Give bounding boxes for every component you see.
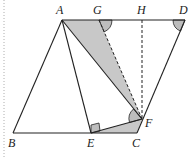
- label-b: B: [8, 136, 16, 150]
- label-h: H: [136, 3, 147, 17]
- geometry-diagram: A G H D B E C F: [0, 0, 195, 158]
- label-f: F: [144, 116, 153, 130]
- label-c: C: [132, 136, 141, 150]
- segment-ab: [13, 20, 62, 133]
- label-e: E: [86, 136, 95, 150]
- label-g: G: [93, 3, 102, 17]
- label-d: D: [178, 3, 188, 17]
- label-a: A: [55, 3, 64, 17]
